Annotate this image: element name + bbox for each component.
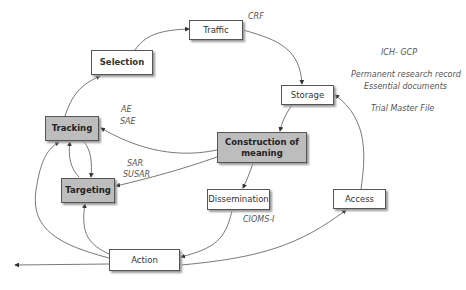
- node-targeting-label: Targeting: [65, 185, 111, 195]
- edge-traffic-storage: [243, 30, 302, 84]
- node-construction: Construction of meaning: [217, 132, 307, 163]
- node-dissemination-label: Dissemination: [208, 194, 269, 204]
- node-storage-label: Storage: [291, 90, 324, 100]
- node-targeting: Targeting: [61, 178, 115, 203]
- edge-selection-traffic: [135, 29, 189, 50]
- node-action-label: Action: [131, 255, 158, 265]
- label-crf: CRF: [248, 11, 264, 23]
- node-construction-label: Construction of meaning: [218, 137, 306, 157]
- edge-tracking-targeting: [83, 141, 91, 177]
- edge-storage-construction: [280, 105, 292, 131]
- label-susar: SUSAR: [123, 169, 150, 181]
- label-cioms: CIOMS-I: [243, 214, 274, 226]
- edge-tracking-selection: [65, 76, 100, 116]
- node-tracking-label: Tracking: [52, 123, 93, 133]
- edge-access-storage: [335, 95, 364, 189]
- node-selection: Selection: [91, 50, 153, 75]
- node-action: Action: [109, 249, 180, 271]
- edge-targeting-tracking: [69, 142, 79, 177]
- edge-construction-tracking: [101, 128, 217, 153]
- node-access-label: Access: [345, 194, 374, 204]
- node-traffic-label: Traffic: [203, 25, 229, 35]
- node-selection-label: Selection: [100, 57, 144, 67]
- edge-action-targeting: [84, 204, 109, 254]
- edge-dissemination-action: [181, 211, 232, 257]
- edge-construction-dissemination: [243, 163, 253, 188]
- edge-action-out: [15, 264, 109, 265]
- node-tracking: Tracking: [45, 116, 99, 141]
- label-ich-gcp: ICH- GCP: [381, 47, 417, 59]
- node-access: Access: [333, 189, 386, 209]
- label-essential-docs: Essential documents: [364, 81, 447, 93]
- label-sae: SAE: [120, 116, 136, 128]
- label-tmf: Trial Master File: [371, 103, 434, 115]
- label-ae: AE: [121, 104, 132, 116]
- label-permanent-record: Permanent research record: [351, 69, 461, 81]
- node-traffic: Traffic: [189, 20, 243, 40]
- node-storage: Storage: [281, 85, 334, 105]
- node-dissemination: Dissemination: [207, 189, 270, 210]
